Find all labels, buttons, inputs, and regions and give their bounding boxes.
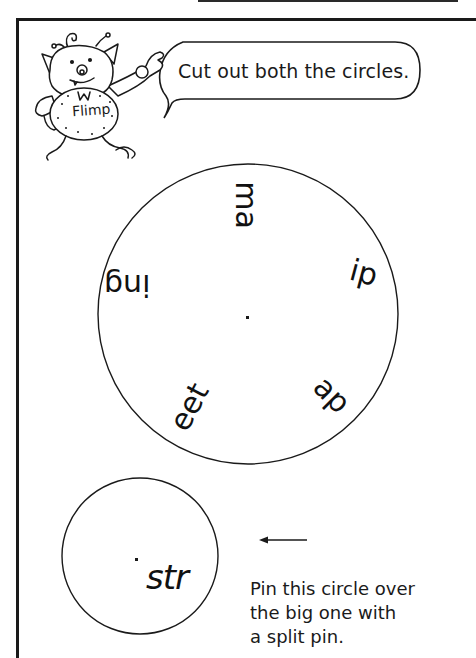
character-name-label: Flimp [71,101,110,120]
big-circle-center-dot [246,316,249,319]
monster-mascot-icon [36,33,164,160]
small-circle-center-dot [135,558,138,561]
segment-ing: ing [104,270,150,300]
instruction-line-1: Pin this circle over [250,577,450,601]
instruction-line-2: the big one with [250,601,450,625]
left-arrow-icon [259,537,307,544]
instruction-line-3: a split pin. [250,625,450,649]
instruction-text: Pin this circle over the big one with a … [250,577,450,649]
small-circle-outline [62,478,218,634]
segment-ma: ma [231,181,261,229]
small-circle-label-str: str [146,557,188,597]
speech-bubble-text: Cut out both the circles. [178,60,409,82]
